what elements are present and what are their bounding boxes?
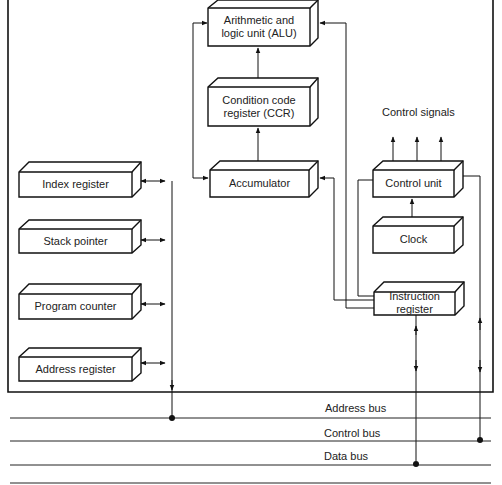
cu-to-control-bus (463, 176, 480, 438)
address-register-label: Address register (19, 357, 132, 381)
data-bus-junction (413, 461, 419, 467)
alu-label: Arithmetic and logic unit (ALU) (208, 8, 310, 46)
control-bus-junction (477, 437, 483, 443)
stack-pointer-label: Stack pointer (19, 229, 132, 253)
control-unit-label: Control unit (373, 170, 454, 197)
ir-to-alu-line (320, 23, 374, 308)
ir-cu-left-loop (358, 180, 374, 296)
control-bus-label: Control bus (324, 427, 380, 440)
clock-label: Clock (373, 226, 454, 253)
ir-to-acc-line (320, 178, 374, 300)
address-bus-label: Address bus (325, 402, 386, 415)
data-bus-label: Data bus (324, 450, 368, 463)
ccr-label: Condition code register (CCR) (208, 87, 310, 126)
control-signals-label: Control signals (382, 106, 455, 119)
instruction-register-label: Instruction register (374, 290, 455, 316)
alu-acc-loop (193, 23, 208, 178)
index-register-label: Index register (19, 172, 132, 197)
program-counter-label: Program counter (19, 294, 132, 319)
accumulator-label: Accumulator (210, 170, 309, 197)
address-bus-junction (169, 415, 175, 421)
